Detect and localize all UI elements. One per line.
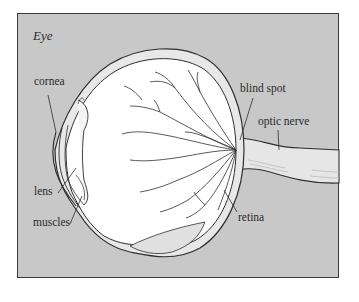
label-muscles: muscles (33, 217, 70, 229)
label-blind-spot: blind spot (240, 83, 286, 95)
cornea-leader-line (48, 95, 56, 132)
eyeball-shape (55, 49, 244, 257)
label-lens: lens (34, 186, 53, 198)
label-retina: retina (238, 212, 264, 224)
label-optic-nerve: optic nerve (258, 116, 309, 128)
optic-nerve-shape (238, 138, 339, 183)
eye-illustration (0, 0, 359, 302)
label-cornea: cornea (34, 76, 65, 88)
blind-spot-leader-line (240, 98, 253, 140)
diagram-title: Eye (33, 29, 52, 42)
